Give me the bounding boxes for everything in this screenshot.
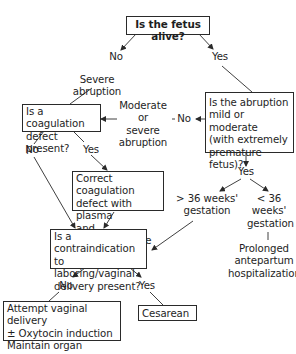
label-contra-yes: Yes [136, 280, 158, 292]
edge-no-contra [34, 157, 75, 228]
label-lt36-weeks: < 36 weeks' gestation [247, 193, 291, 230]
edge-no-attempt [49, 292, 59, 301]
edge-yes-lt36 [250, 179, 268, 191]
label-coag-yes: Yes [80, 144, 102, 156]
edge-yes-cesarean [150, 292, 163, 305]
node-correct-coagulation: Correct coagulation defect with plasma a… [72, 171, 164, 211]
node-coagulation-defect: Is a coagulation defect present? [22, 104, 101, 132]
label-coag-no: No [22, 144, 42, 156]
node-attempt-vaginal-delivery: Attempt vaginal delivery ± Oxytocin indu… [3, 301, 121, 341]
node-fetus-alive: Is the fetus alive? [126, 16, 210, 35]
label-abruption-yes: Yes [235, 166, 257, 178]
edge-yes-abruption [222, 66, 252, 92]
edge-coag-yes [73, 131, 84, 142]
label-moderate-severe-abruption: Moderate or severe abruption [117, 100, 169, 150]
node-contraindication: Is a contraindication to laboring/vagina… [50, 229, 147, 269]
label-alive-yes: Yes [209, 51, 231, 63]
label-gt36-weeks: > 36 weeks' gestation [176, 193, 238, 218]
edge-alive-yes [199, 34, 213, 49]
label-alive-no: No [106, 51, 126, 63]
flowchart-canvas: Is the fetus alive? Is a coagulation def… [0, 0, 296, 354]
label-prolonged-hospitalization: Prolonged antepartum hospitalization [228, 243, 296, 280]
label-contra-no: No [56, 280, 76, 292]
edge-yes-gt36 [220, 179, 241, 191]
edge-yes-correct [91, 155, 107, 170]
edge-gt36-contra [152, 221, 193, 250]
label-severe-abruption: Severe abruption [56, 74, 138, 99]
node-cesarean: Cesarean [138, 305, 197, 321]
node-abruption-mild-moderate: Is the abruption mild or moderate (with … [205, 92, 294, 153]
label-abruption-no: No [173, 113, 195, 125]
edge-alive-no [121, 34, 136, 50]
